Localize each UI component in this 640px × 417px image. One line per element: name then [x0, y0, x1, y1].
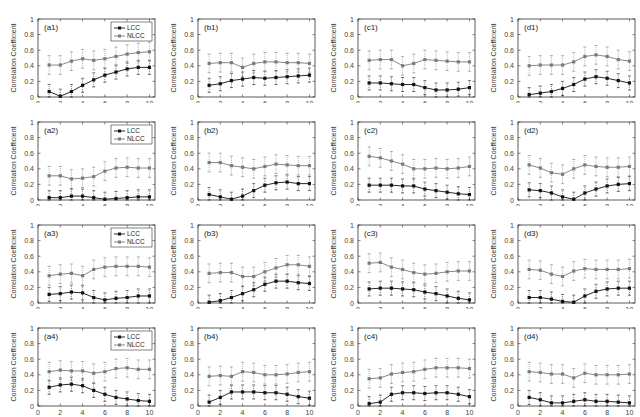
y-tick-label: 0.6	[504, 356, 514, 363]
y-axis-label: Correlation Coefficient	[330, 126, 337, 195]
y-tick-label: 1	[190, 222, 194, 229]
y-tick-label: 0.2	[504, 284, 514, 291]
chart-panel-c1: 00.20.40.60.810246810Correlation Coeffic…	[320, 0, 480, 103]
y-tick-label: 0.4	[344, 371, 354, 378]
y-axis-label: Correlation Coefficient	[170, 229, 177, 298]
y-tick-label: 0.6	[24, 253, 34, 260]
y-tick-label: 0.2	[184, 181, 194, 188]
chart-panel-a1: 00.20.40.60.810246810Correlation Coeffic…	[0, 0, 160, 103]
x-tick-label: 2	[538, 409, 542, 416]
y-tick-label: 0.8	[504, 237, 514, 244]
y-tick-label: 0.2	[24, 284, 34, 291]
legend-label: LCC	[127, 24, 140, 31]
panel-title: (a4)	[44, 332, 59, 341]
legend: LCCNLCC	[111, 22, 152, 41]
y-tick-label: 0.2	[504, 387, 514, 394]
chart-panel-b3: 00.20.40.60.810246810Correlation Coeffic…	[160, 206, 320, 309]
chart-panel-a3: 00.20.40.60.810246810Correlation Coeffic…	[0, 206, 160, 309]
y-tick-label: 1	[190, 119, 194, 126]
y-tick-label: 0	[190, 197, 194, 204]
y-tick-label: 0.8	[24, 134, 34, 141]
y-axis-label: Correlation Coefficient	[330, 332, 337, 401]
y-tick-label: 0.4	[344, 62, 354, 69]
y-tick-label: 0.2	[184, 78, 194, 85]
y-tick-label: 0.2	[184, 284, 194, 291]
y-tick-label: 0.8	[184, 31, 194, 38]
y-tick-label: 0.8	[24, 340, 34, 347]
y-axis-label: Correlation Coefficient	[170, 126, 177, 195]
x-tick-label: 4	[401, 409, 405, 416]
chart-panel-b4: 00.20.40.60.810246810Correlation Coeffic…	[160, 309, 320, 417]
y-tick-label: 0.6	[504, 47, 514, 54]
y-tick-label: 0.4	[504, 165, 514, 172]
y-tick-label: 1	[190, 16, 194, 23]
x-tick-label: 10	[466, 409, 474, 416]
y-tick-label: 1	[350, 16, 354, 23]
x-tick-label: 6	[103, 409, 107, 416]
y-tick-label: 0.2	[344, 284, 354, 291]
y-tick-label: 0.4	[184, 62, 194, 69]
y-tick-label: 0.8	[344, 31, 354, 38]
x-tick-label: 8	[605, 409, 609, 416]
y-tick-label: 0.8	[344, 237, 354, 244]
y-axis-label: Correlation Coefficient	[490, 23, 497, 92]
x-tick-label: 0	[356, 409, 360, 416]
legend-label: LCC	[127, 333, 140, 340]
y-tick-label: 0	[30, 300, 34, 307]
legend-label: LCC	[127, 127, 140, 134]
y-tick-label: 0	[30, 197, 34, 204]
y-tick-label: 0.4	[24, 165, 34, 172]
chart-panel-d3: 00.20.40.60.810246810Correlation Coeffic…	[480, 206, 640, 309]
y-axis-label: Correlation Coefficient	[10, 229, 17, 298]
x-tick-label: 8	[125, 409, 129, 416]
x-tick-label: 8	[445, 409, 449, 416]
y-axis-label: Correlation Coefficient	[330, 229, 337, 298]
chart-panel-b2: 00.20.40.60.810246810Correlation Coeffic…	[160, 103, 320, 206]
y-axis-label: Correlation Coefficient	[490, 332, 497, 401]
y-tick-label: 0.8	[24, 31, 34, 38]
x-tick-label: 8	[285, 409, 289, 416]
legend-label: NLCC	[127, 341, 145, 348]
y-tick-label: 0.2	[344, 78, 354, 85]
y-tick-label: 0	[350, 403, 354, 410]
y-tick-label: 0.8	[504, 31, 514, 38]
chart-panel-c4: 00.20.40.60.810246810Correlation Coeffic…	[320, 309, 480, 417]
y-tick-label: 0.2	[24, 181, 34, 188]
y-tick-label: 0.4	[184, 268, 194, 275]
y-tick-label: 1	[510, 222, 514, 229]
x-tick-label: 6	[423, 409, 427, 416]
y-tick-label: 0.6	[184, 356, 194, 363]
chart-panel-b1: 00.20.40.60.810246810Correlation Coeffic…	[160, 0, 320, 103]
y-tick-label: 0.4	[24, 62, 34, 69]
panel-title: (d2)	[524, 126, 539, 135]
y-tick-label: 0	[510, 300, 514, 307]
y-tick-label: 0.6	[24, 356, 34, 363]
legend: LCCNLCC	[111, 125, 152, 144]
y-tick-label: 0.6	[344, 47, 354, 54]
y-tick-label: 0.4	[184, 165, 194, 172]
y-axis-label: Correlation Coefficient	[170, 23, 177, 92]
panel-title: (a3)	[44, 229, 59, 238]
y-tick-label: 0.2	[504, 78, 514, 85]
y-tick-label: 0.6	[24, 47, 34, 54]
y-axis-label: Correlation Coefficient	[170, 332, 177, 401]
y-axis-label: Correlation Coefficient	[10, 126, 17, 195]
y-tick-label: 0.8	[184, 134, 194, 141]
x-tick-label: 4	[241, 409, 245, 416]
y-axis-label: Correlation Coefficient	[490, 126, 497, 195]
y-tick-label: 0.4	[24, 268, 34, 275]
x-tick-label: 0	[196, 409, 200, 416]
chart-grid: 00.20.40.60.810246810Correlation Coeffic…	[0, 0, 640, 417]
y-tick-label: 0.2	[184, 387, 194, 394]
y-tick-label: 0.6	[184, 253, 194, 260]
x-tick-label: 6	[583, 409, 587, 416]
y-tick-label: 0	[190, 403, 194, 410]
y-tick-label: 0	[190, 300, 194, 307]
y-tick-label: 0.2	[344, 387, 354, 394]
y-tick-label: 0.6	[184, 47, 194, 54]
x-tick-label: 0	[516, 409, 520, 416]
y-tick-label: 0	[30, 403, 34, 410]
y-tick-label: 1	[30, 119, 34, 126]
y-tick-label: 0	[350, 197, 354, 204]
x-tick-label: 2	[218, 409, 222, 416]
